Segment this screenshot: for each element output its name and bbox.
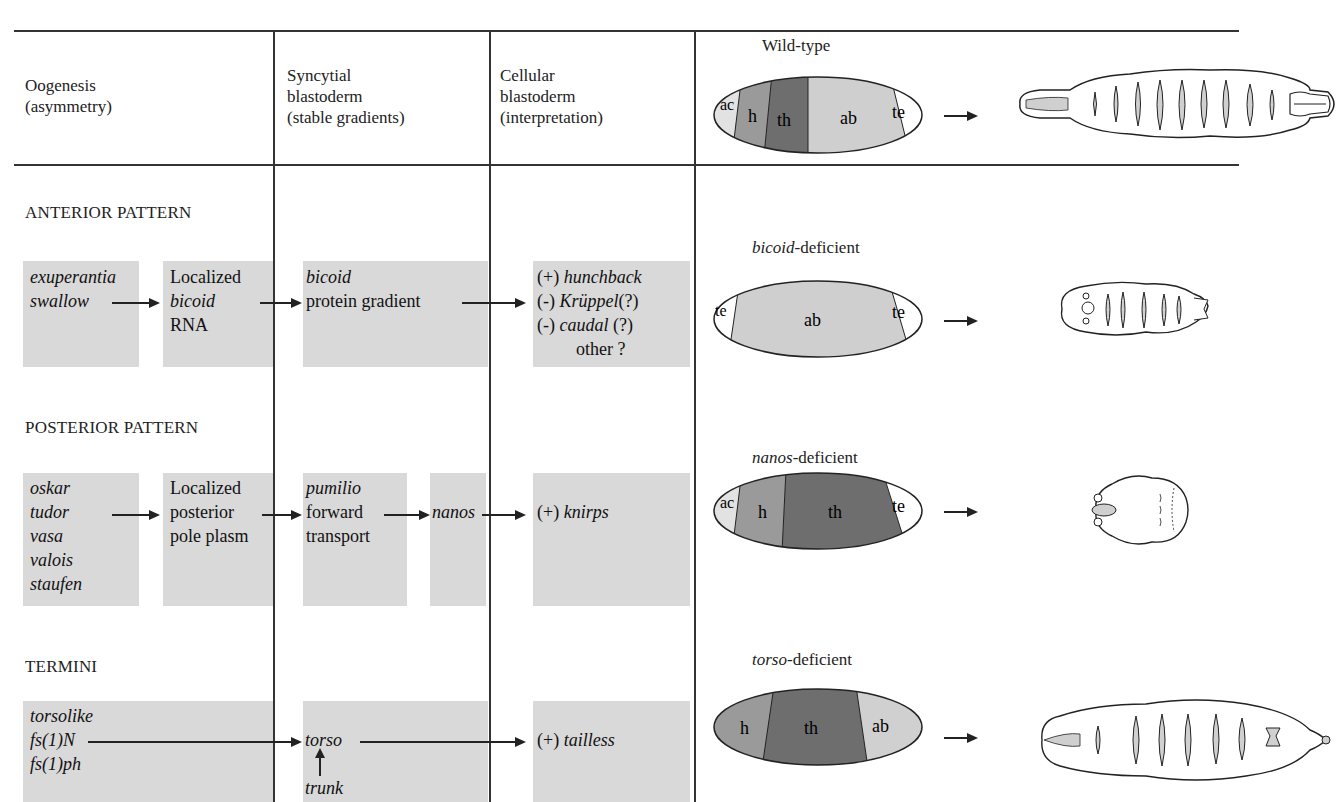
nanos-deficient-label: nanos-deficient — [752, 448, 858, 468]
posterior-arrow-4 — [482, 514, 524, 516]
posterior-arrow-1 — [112, 514, 158, 516]
svg-text:ab: ab — [872, 716, 889, 736]
posterior-gene: tudor — [30, 500, 69, 524]
nanos-deficient-embryo: ac h th te — [712, 470, 924, 552]
header-oogenesis: Oogenesis (asymmetry) — [25, 75, 112, 117]
wildtype-embryo: ac h th ab te — [712, 74, 924, 156]
bicoid-deficient-embryo: te ab te — [712, 278, 924, 360]
termini-trunk-arrow — [319, 756, 321, 776]
svg-text:ac: ac — [720, 494, 734, 511]
svg-text:th: th — [828, 502, 842, 522]
posterior-localized-line3: pole plasm — [170, 524, 249, 548]
svg-text:th: th — [804, 718, 818, 738]
region-ac: ac — [720, 96, 734, 113]
bicoid-larva-icon — [1056, 276, 1216, 342]
posterior-syncytial-line3: transport — [306, 524, 370, 548]
bicoid-arrow — [944, 320, 976, 322]
posterior-syncytial-line2: forward — [306, 500, 363, 524]
torso-arrow — [944, 737, 976, 739]
anterior-localized-line3: RNA — [170, 313, 208, 337]
svg-text:h: h — [748, 106, 757, 126]
termini-syncytial-input: trunk — [305, 776, 343, 800]
anterior-localized-line2: bicoid — [170, 289, 215, 313]
anterior-syncytial-desc: protein gradient — [306, 289, 420, 313]
svg-text:ab: ab — [840, 108, 857, 128]
section-termini-title: TERMINI — [25, 657, 97, 677]
section-posterior-title: POSTERIOR PATTERN — [25, 418, 198, 438]
posterior-arrow-2 — [262, 514, 300, 516]
column-divider-2 — [489, 31, 491, 802]
svg-text:h: h — [758, 502, 767, 522]
termini-gene: fs(1)N — [30, 728, 75, 752]
termini-arrow-1 — [88, 741, 300, 743]
anterior-arrow-3 — [462, 302, 524, 304]
nanos-larva-icon — [1082, 468, 1192, 552]
anterior-cellular-row: (+) hunchback — [537, 265, 642, 289]
anterior-arrow-1 — [112, 302, 158, 304]
posterior-gene: valois — [30, 548, 73, 572]
svg-text:te: te — [892, 496, 905, 516]
top-rule — [14, 30, 1239, 32]
svg-text:h: h — [740, 718, 749, 738]
svg-text:te: te — [892, 302, 905, 322]
posterior-nanos-box — [430, 473, 486, 606]
termini-arrow-2 — [360, 741, 524, 743]
torso-larva-icon — [1036, 694, 1336, 786]
posterior-localized-line2: posterior — [170, 500, 234, 524]
wildtype-label: Wild-type — [762, 36, 830, 56]
wildtype-larva-icon — [1010, 64, 1340, 144]
anterior-gene: swallow — [30, 289, 89, 313]
header-rule — [14, 164, 1239, 166]
posterior-syncytial-gene: pumilio — [306, 476, 361, 500]
svg-text:th: th — [777, 110, 791, 130]
header-cellular: Cellular blastoderm (interpretation) — [500, 65, 603, 128]
termini-cellular-row: (+) tailless — [537, 728, 615, 752]
posterior-gene: staufen — [30, 572, 82, 596]
column-divider-1 — [273, 31, 275, 802]
anterior-cellular-row: other ? — [576, 337, 625, 361]
posterior-arrow-3 — [384, 514, 428, 516]
posterior-cellular-row: (+) knirps — [537, 500, 609, 524]
column-divider-3 — [694, 31, 696, 802]
svg-text:ab: ab — [804, 310, 821, 330]
svg-text:te: te — [892, 102, 905, 122]
section-anterior-title: ANTERIOR PATTERN — [25, 203, 191, 223]
torso-deficient-label: torso-deficient — [752, 650, 852, 670]
anterior-cellular-row: (-) Krüppel(?) — [537, 289, 638, 313]
svg-text:te: te — [715, 302, 727, 319]
termini-gene: fs(1)ph — [30, 752, 81, 776]
posterior-gene: oskar — [30, 476, 70, 500]
posterior-gene: vasa — [30, 524, 63, 548]
anterior-gene: exuperantia — [30, 265, 116, 289]
torso-deficient-embryo: h th ab — [712, 686, 924, 768]
bicoid-deficient-label: bicoid-deficient — [752, 238, 860, 258]
anterior-localized-line1: Localized — [170, 265, 241, 289]
anterior-cellular-row: (-) caudal (?) — [537, 313, 633, 337]
header-syncytial: Syncytial blastoderm (stable gradients) — [287, 65, 405, 128]
posterior-localized-line1: Localized — [170, 476, 241, 500]
anterior-syncytial-gene: bicoid — [306, 265, 351, 289]
posterior-cellular-box — [533, 473, 690, 606]
anterior-arrow-2 — [260, 302, 300, 304]
posterior-nanos: nanos — [432, 500, 475, 524]
termini-gene: torsolike — [30, 704, 93, 728]
nanos-arrow — [944, 511, 976, 513]
wildtype-arrow — [944, 115, 976, 117]
